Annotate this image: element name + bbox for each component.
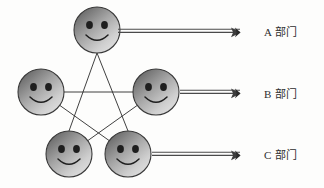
arrow-to-a <box>118 29 240 32</box>
eye-right-icon <box>101 21 108 29</box>
arrow-to-c <box>152 152 240 155</box>
diagram-canvas: A 部门 B 部门 C 部门 <box>0 0 324 188</box>
label-department-a: A 部门 <box>264 23 298 39</box>
eye-right-icon <box>45 83 52 91</box>
eye-left-icon <box>117 145 124 153</box>
eye-left-icon <box>86 21 93 29</box>
smiley-face-top[interactable] <box>74 7 120 53</box>
eye-left-icon <box>145 83 152 91</box>
label-department-c: C 部门 <box>264 146 298 162</box>
smiley-face-middle-left[interactable] <box>18 69 64 115</box>
face-circle-icon <box>105 131 151 177</box>
arrow-to-b <box>180 90 240 93</box>
eye-left-icon <box>30 83 37 91</box>
smiley-face-bottom-right[interactable] <box>105 131 151 177</box>
eye-left-icon <box>58 145 65 153</box>
face-circle-icon <box>74 7 120 53</box>
eye-right-icon <box>132 145 139 153</box>
eye-right-icon <box>73 145 80 153</box>
face-circle-icon <box>46 131 92 177</box>
face-circle-icon <box>18 69 64 115</box>
smiley-face-middle-right[interactable] <box>133 69 179 115</box>
eye-right-icon <box>160 83 167 91</box>
label-department-b: B 部门 <box>264 85 298 101</box>
face-circle-icon <box>133 69 179 115</box>
smiley-face-bottom-left[interactable] <box>46 131 92 177</box>
